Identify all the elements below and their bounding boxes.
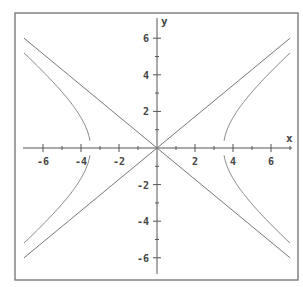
x-tick-label: -4	[75, 156, 87, 167]
y-tick-label: -4	[137, 216, 149, 227]
x-tick-label: 2	[192, 156, 198, 167]
x-tick-label: 4	[230, 156, 236, 167]
y-tick-label: 4	[143, 70, 149, 81]
x-tick-label: -2	[113, 156, 125, 167]
x-tick-label: -6	[37, 156, 49, 167]
y-tick-label: 2	[143, 106, 149, 117]
y-axis-label: y	[161, 15, 168, 28]
y-tick-label: 6	[143, 33, 149, 44]
y-tick-label: -6	[137, 253, 149, 264]
y-tick-label: -2	[137, 180, 149, 191]
x-tick-label: 6	[268, 156, 274, 167]
x-axis-label: x	[286, 132, 293, 145]
hyperbola-plot: -6-4-2246 642-2-4-6 x y	[0, 0, 303, 287]
